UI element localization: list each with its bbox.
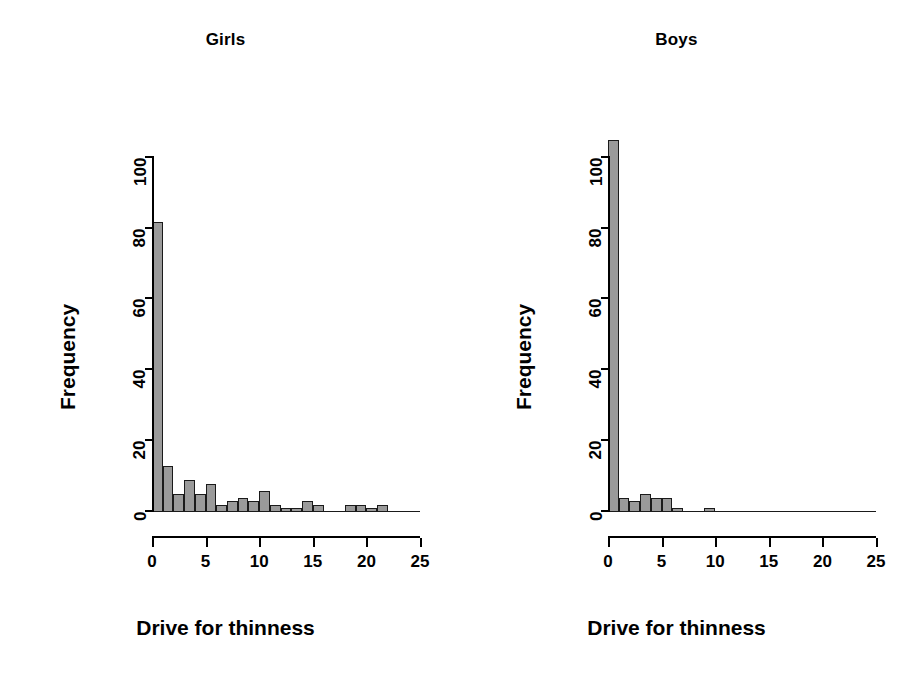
histogram-bar (345, 505, 356, 512)
histogram-bar (683, 511, 694, 512)
plot-area-boys: 020406080100 0510152025 (586, 140, 876, 550)
histogram-bar (726, 511, 737, 512)
panel-title-girls: Girls (0, 30, 451, 50)
histogram-bar (769, 511, 780, 512)
x-axis-tick (769, 538, 771, 547)
histogram-bar (366, 508, 377, 512)
x-axis-tick-label: 10 (250, 552, 269, 572)
x-axis-tick (313, 538, 315, 547)
histogram-bar (844, 511, 855, 512)
histogram-bar (334, 511, 345, 512)
y-axis-tick-label: 0 (132, 512, 149, 521)
x-axis-tick-label: 0 (147, 552, 156, 572)
x-axis-tick (152, 538, 154, 547)
histogram-bar (747, 511, 758, 512)
x-axis-girls: 0510152025 (152, 536, 420, 538)
x-axis-tick-label: 5 (201, 552, 210, 572)
histogram-bar (790, 511, 801, 512)
y-axis-tick-label: 80 (132, 228, 149, 247)
histogram-bar (356, 505, 367, 512)
histogram-bar (758, 511, 769, 512)
y-axis-tick-label: 60 (132, 299, 149, 318)
x-axis-tick (715, 538, 717, 547)
bars-girls (130, 140, 420, 550)
histogram-bar (812, 511, 823, 512)
x-axis-tick (206, 538, 208, 547)
histogram-bar (216, 505, 227, 512)
y-axis-tick-label: 100 (132, 157, 149, 185)
histogram-bar (324, 511, 335, 512)
y-axis-tick-label: 20 (132, 441, 149, 460)
x-axis-tick-label: 20 (813, 552, 832, 572)
y-axis-label-girls: Frequency (56, 304, 80, 410)
panel-title-boys: Boys (451, 30, 902, 50)
histogram-bar (662, 498, 673, 512)
histogram-bar (822, 511, 833, 512)
histogram-bar (801, 511, 812, 512)
histogram-bar (737, 511, 748, 512)
histogram-bar (302, 501, 313, 512)
x-axis-tick-label: 20 (357, 552, 376, 572)
histogram-bar (704, 508, 715, 512)
x-axis-tick (876, 538, 878, 547)
x-axis-boys: 0510152025 (608, 536, 876, 538)
histogram-bar (865, 511, 876, 512)
x-axis-tick-label: 0 (603, 552, 612, 572)
x-axis-tick-label: 15 (759, 552, 778, 572)
histogram-bar (227, 501, 238, 512)
x-axis-tick (822, 538, 824, 547)
histogram-bar (313, 505, 324, 512)
y-axis-tick-label: 100 (588, 157, 605, 185)
x-axis-tick-label: 10 (706, 552, 725, 572)
histogram-bar (238, 498, 249, 512)
histogram-bar (259, 491, 270, 512)
x-axis-tick (420, 538, 422, 547)
histogram-bar (270, 505, 281, 512)
histogram-bar (409, 511, 420, 512)
histogram-bar (672, 508, 683, 512)
y-axis-girls: 020406080100 (152, 158, 154, 512)
histogram-bar (377, 505, 388, 512)
histogram-bar (629, 501, 640, 512)
x-axis-tick (662, 538, 664, 547)
histogram-bar (619, 498, 630, 512)
x-axis-tick-label: 25 (867, 552, 886, 572)
histogram-bar (195, 494, 206, 512)
y-axis-tick-label: 40 (132, 370, 149, 389)
histogram-bar (163, 466, 174, 512)
histogram-bar (248, 501, 259, 512)
histogram-bar (173, 494, 184, 512)
y-axis-tick-label: 40 (588, 370, 605, 389)
x-axis-tick-label: 5 (657, 552, 666, 572)
x-axis-tick-label: 25 (411, 552, 430, 572)
histogram-bar (855, 511, 866, 512)
histogram-bar (399, 511, 410, 512)
histogram-bar (715, 511, 726, 512)
histogram-bar (651, 498, 662, 512)
histogram-bar (291, 508, 302, 512)
x-axis-tick-label: 15 (303, 552, 322, 572)
histogram-bar (388, 511, 399, 512)
y-axis-tick-label: 80 (588, 228, 605, 247)
x-axis-label-boys: Drive for thinness (451, 616, 902, 640)
bars-boys (586, 140, 876, 550)
panel-girls: Girls Frequency Drive for thinness 02040… (0, 0, 451, 692)
histogram-bar (780, 511, 791, 512)
x-axis-label-girls: Drive for thinness (0, 616, 451, 640)
y-axis-tick-label: 20 (588, 441, 605, 460)
histogram-bar (281, 508, 292, 512)
x-axis-tick (366, 538, 368, 547)
y-axis-tick-label: 0 (588, 512, 605, 521)
plot-area-girls: 020406080100 0510152025 (130, 140, 420, 550)
histogram-bar (833, 511, 844, 512)
figure-canvas: Girls Frequency Drive for thinness 02040… (0, 0, 902, 692)
histogram-bar (640, 494, 651, 512)
x-axis-tick (259, 538, 261, 547)
x-axis-tick (608, 538, 610, 547)
y-axis-boys: 020406080100 (608, 158, 610, 512)
histogram-bar (206, 484, 217, 512)
y-axis-tick-label: 60 (588, 299, 605, 318)
histogram-bar (694, 511, 705, 512)
histogram-bar (184, 480, 195, 512)
panel-boys: Boys Frequency Drive for thinness 020406… (451, 0, 902, 692)
